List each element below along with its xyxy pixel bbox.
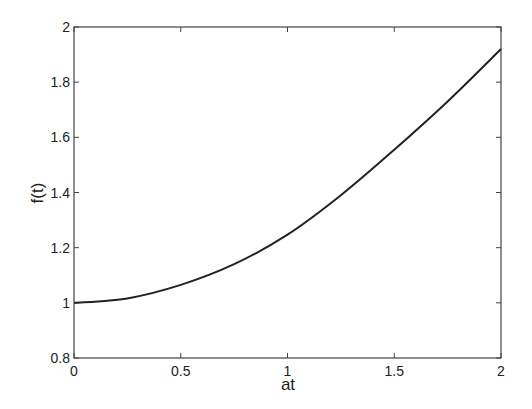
x-axis-label: at (281, 375, 295, 394)
x-tick-label: 0 (70, 363, 78, 379)
y-tick-label: 1.6 (51, 129, 71, 145)
y-tick-label: 0.8 (51, 350, 71, 366)
y-tick-label: 1.8 (51, 74, 71, 90)
x-tick-label: 1.5 (385, 363, 405, 379)
x-tick-label: 0.5 (171, 363, 191, 379)
y-tick-label: 1.4 (51, 185, 71, 201)
y-tick-label: 1.2 (51, 240, 71, 256)
y-axis-label: f(t) (28, 183, 47, 204)
y-tick-label: 1 (62, 295, 70, 311)
chart: 00.511.52 0.811.21.41.61.82 at f(t) (0, 0, 532, 409)
y-tick-label: 2 (62, 19, 70, 35)
x-tick-label: 2 (497, 363, 505, 379)
plot-area (74, 27, 501, 358)
